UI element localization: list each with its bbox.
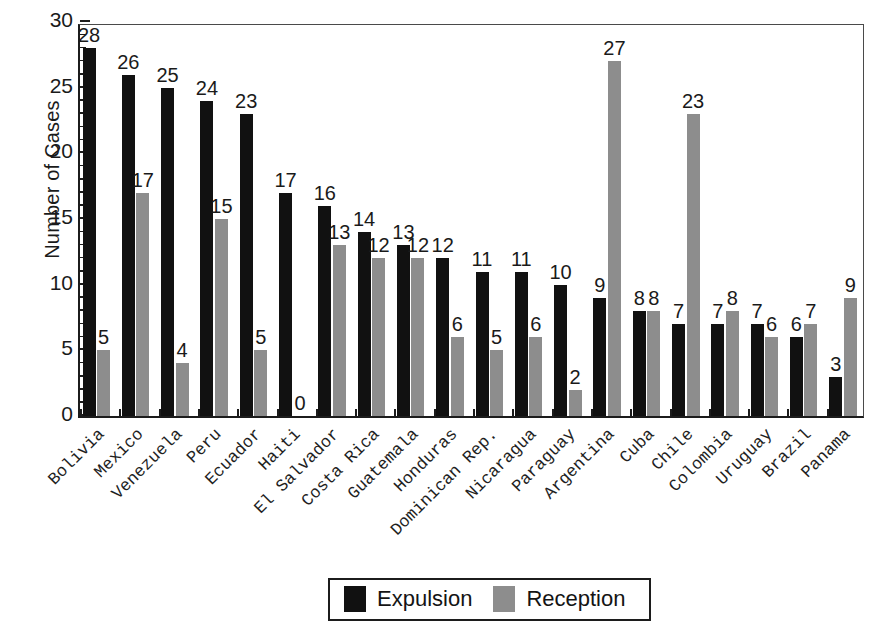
bar-value-label: 7 xyxy=(805,301,816,321)
bar-value-label: 23 xyxy=(235,91,257,111)
bar-expulsion-paraguay xyxy=(554,285,567,416)
bar-value-label: 12 xyxy=(367,235,389,255)
bar-expulsion-haiti xyxy=(279,193,292,416)
bar-value-label: 9 xyxy=(594,275,605,295)
bar-expulsion-costa-rica xyxy=(358,232,371,416)
bar-value-label: 12 xyxy=(407,235,429,255)
bar-value-label: 14 xyxy=(353,209,375,229)
y-tick-label: 20 xyxy=(50,139,73,163)
y-tick-label: 0 xyxy=(61,402,73,426)
bar-value-label: 9 xyxy=(845,275,856,295)
bar-reception-brazil xyxy=(804,324,817,416)
bar-expulsion-panama xyxy=(829,377,842,416)
bar-expulsion-uruguay xyxy=(751,324,764,416)
bar-expulsion-nicaragua xyxy=(515,272,528,416)
bar-reception-costa-rica xyxy=(372,258,385,416)
bar-value-label: 15 xyxy=(210,196,232,216)
bar-reception-panama xyxy=(844,298,857,416)
bar-value-label: 8 xyxy=(648,288,659,308)
bar-reception-uruguay xyxy=(765,337,778,416)
bar-value-label: 6 xyxy=(452,314,463,334)
legend-swatch-reception xyxy=(493,586,515,612)
bar-value-label: 16 xyxy=(314,183,336,203)
bar-expulsion-guatemala xyxy=(397,245,410,416)
bar-reception-honduras xyxy=(451,337,464,416)
bar-value-label: 10 xyxy=(549,262,571,282)
legend-label-expulsion: Expulsion xyxy=(377,586,472,612)
bar-value-label: 28 xyxy=(78,25,100,45)
bar-value-label: 8 xyxy=(634,288,645,308)
bar-value-label: 27 xyxy=(603,38,625,58)
bar-value-label: 0 xyxy=(294,393,305,413)
bar-value-label: 6 xyxy=(791,314,802,334)
bar-value-label: 13 xyxy=(328,222,350,242)
bar-reception-dominican-rep xyxy=(490,350,503,416)
y-tick-major: 30 xyxy=(80,20,90,22)
bar-value-label: 17 xyxy=(274,170,296,190)
bar-value-label: 7 xyxy=(752,301,763,321)
bar-expulsion-venezuela xyxy=(161,88,174,416)
y-tick-label: 15 xyxy=(50,205,73,229)
bar-value-label: 8 xyxy=(727,288,738,308)
bar-expulsion-bolivia xyxy=(83,48,96,416)
y-tick-label: 30 xyxy=(50,8,73,32)
legend-swatch-expulsion xyxy=(344,586,366,612)
bar-expulsion-cuba xyxy=(633,311,646,416)
x-category-label: Bolivia xyxy=(44,425,108,489)
bar-expulsion-honduras xyxy=(436,258,449,416)
bar-expulsion-argentina xyxy=(593,298,606,416)
bar-value-label: 5 xyxy=(98,327,109,347)
bar-reception-argentina xyxy=(608,61,621,416)
bar-expulsion-dominican-rep xyxy=(476,272,489,416)
bar-reception-el-salvador xyxy=(333,245,346,416)
bar-reception-cuba xyxy=(647,311,660,416)
bar-value-label: 12 xyxy=(432,235,454,255)
bar-expulsion-mexico xyxy=(122,75,135,416)
bar-expulsion-chile xyxy=(672,324,685,416)
bar-value-label: 6 xyxy=(766,314,777,334)
bar-value-label: 11 xyxy=(472,249,493,269)
bar-value-label: 3 xyxy=(830,354,841,374)
chart-legend: ExpulsionReception xyxy=(328,578,651,621)
legend-label-reception: Reception xyxy=(526,586,625,612)
bar-expulsion-colombia xyxy=(711,324,724,416)
bar-reception-colombia xyxy=(726,311,739,416)
y-tick-label: 10 xyxy=(50,271,73,295)
bar-value-label: 25 xyxy=(156,65,178,85)
bar-value-label: 17 xyxy=(132,170,154,190)
bar-value-label: 5 xyxy=(255,327,266,347)
bar-value-label: 23 xyxy=(682,91,704,111)
bar-value-label: 7 xyxy=(712,301,723,321)
bar-reception-chile xyxy=(687,114,700,416)
bar-reception-guatemala xyxy=(411,258,424,416)
bar-expulsion-peru xyxy=(200,101,213,416)
bar-reception-nicaragua xyxy=(529,337,542,416)
bar-value-label: 26 xyxy=(117,52,139,72)
bar-value-label: 7 xyxy=(673,301,684,321)
bar-value-label: 11 xyxy=(511,249,532,269)
y-tick-label: 25 xyxy=(50,74,73,98)
bar-expulsion-brazil xyxy=(790,337,803,416)
bar-value-label: 4 xyxy=(177,340,188,360)
bar-value-label: 2 xyxy=(570,367,581,387)
bar-value-label: 24 xyxy=(196,78,218,98)
bar-expulsion-ecuador xyxy=(240,114,253,416)
bar-value-label: 6 xyxy=(530,314,541,334)
chart-page: Number of Cases 051015202530 28526172542… xyxy=(0,0,880,641)
bar-reception-mexico xyxy=(136,193,149,416)
bar-reception-peru xyxy=(215,219,228,416)
bar-reception-bolivia xyxy=(97,350,110,416)
plot-area: 051015202530 285261725424152351701613141… xyxy=(78,24,864,418)
bar-value-label: 5 xyxy=(491,327,502,347)
bar-reception-paraguay xyxy=(569,390,582,416)
y-tick-label: 5 xyxy=(61,336,73,360)
bar-reception-ecuador xyxy=(254,350,267,416)
bar-reception-venezuela xyxy=(176,363,189,416)
